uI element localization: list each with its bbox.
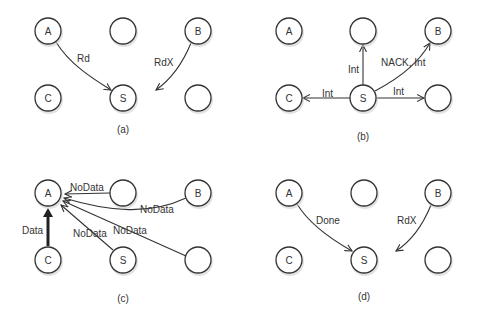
edge-label: RdX — [154, 57, 174, 68]
panel-caption: (c) — [117, 293, 129, 304]
svg-text:B: B — [435, 26, 442, 37]
edge-label: NoData — [113, 225, 147, 236]
node-S: S — [351, 247, 379, 276]
node-C: C — [276, 85, 304, 114]
panel-c: NoData NoData Data NoData NoData A B C S… — [22, 180, 213, 304]
svg-text:A: A — [286, 26, 293, 37]
svg-text:S: S — [361, 255, 368, 266]
panel-d: Done RdX A B C S (d) — [276, 180, 453, 302]
node-bottom-right — [185, 247, 213, 276]
svg-text:A: A — [45, 26, 52, 37]
protocol-diagram: Rd RdX A B C S (a) Int NACK, Int Int Int… — [0, 0, 481, 319]
edge-d-A-S — [297, 204, 352, 251]
node-B: B — [425, 18, 453, 47]
edge-label: Int — [393, 86, 404, 97]
node-S: S — [110, 247, 138, 276]
svg-text:S: S — [120, 255, 127, 266]
svg-text:S: S — [120, 93, 127, 104]
panel-caption: (d) — [358, 291, 370, 302]
edge-label: Done — [316, 215, 340, 226]
svg-text:C: C — [44, 255, 51, 266]
panel-caption: (a) — [117, 124, 129, 135]
svg-text:C: C — [285, 255, 292, 266]
node-S: S — [110, 85, 138, 114]
node-C: C — [35, 247, 63, 276]
edge-a-A-S — [56, 42, 111, 90]
svg-text:A: A — [45, 188, 52, 199]
node-bottom-right — [185, 85, 213, 114]
node-top-mid — [110, 18, 138, 47]
node-B: B — [185, 180, 213, 209]
node-top-mid — [110, 180, 138, 209]
edge-label: NoData — [140, 204, 174, 215]
edge-label: Data — [22, 225, 44, 236]
panel-caption: (b) — [357, 131, 369, 142]
edge-label: NoData — [70, 182, 104, 193]
node-A: A — [276, 18, 304, 47]
node-C: C — [35, 85, 63, 114]
node-A: A — [35, 180, 63, 209]
svg-text:C: C — [44, 93, 51, 104]
node-top-mid — [351, 180, 379, 209]
edge-d-B-S — [396, 205, 431, 251]
panel-b: Int NACK, Int Int Int A B C S (b) — [276, 18, 453, 142]
edge-c-top-A — [65, 193, 110, 194]
panel-a: Rd RdX A B C S (a) — [35, 18, 213, 135]
node-S: S — [350, 85, 378, 114]
svg-text:B: B — [195, 188, 202, 199]
node-A: A — [276, 180, 304, 209]
edge-label: Rd — [77, 53, 90, 64]
edge-label: RdX — [397, 215, 417, 226]
edge-label: Int — [348, 64, 359, 75]
node-B: B — [425, 180, 453, 209]
edge-label: NACK, Int — [381, 57, 426, 68]
svg-text:C: C — [285, 93, 292, 104]
node-C: C — [276, 247, 304, 276]
edge-label: NoData — [73, 228, 107, 239]
svg-text:B: B — [435, 188, 442, 199]
node-top-mid — [350, 18, 378, 47]
svg-text:B: B — [195, 26, 202, 37]
node-B: B — [185, 18, 213, 47]
node-bottom-right — [425, 85, 453, 114]
svg-text:S: S — [360, 93, 367, 104]
edge-label: Int — [322, 88, 333, 99]
node-bottom-right — [425, 247, 453, 276]
svg-text:A: A — [286, 188, 293, 199]
node-A: A — [35, 18, 63, 47]
